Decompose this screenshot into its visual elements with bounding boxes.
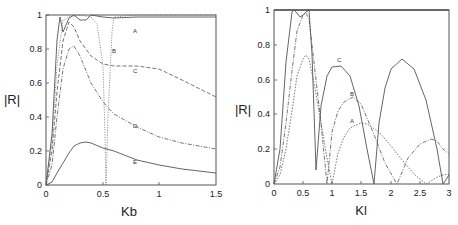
left-ytick-5: 1	[37, 10, 42, 20]
left-xtick-3: 1.5	[210, 189, 223, 199]
right-ytick-4: 0.8	[257, 40, 270, 50]
left-curve-a	[46, 15, 216, 185]
left-chart: 0 0.2 0.4 0.6 0.8 1 0 0.5 1 1.5 Kb |R| A…	[4, 10, 222, 219]
right-ytick-2: 0.4	[257, 109, 270, 119]
right-ytick-1: 0.2	[257, 144, 270, 154]
right-xtick-0: 0	[271, 188, 276, 198]
right-xtick-4: 2	[388, 188, 393, 198]
left-xtick-2: 1	[156, 189, 161, 199]
left-xaxis-label: Kb	[121, 204, 137, 219]
right-chart: 0 0.2 0.4 0.6 0.8 1 0 0.5 1 1.5 2 2.5 3 …	[235, 5, 452, 218]
right-curve-c	[274, 10, 449, 184]
right-label-c: C	[337, 57, 342, 63]
right-ytick-3: 0.6	[257, 75, 270, 85]
left-label-d: D	[133, 123, 138, 129]
left-yaxis-label: |R|	[4, 92, 20, 107]
left-label-e: E	[133, 159, 137, 165]
right-xaxis-label: Kl	[355, 203, 367, 218]
right-xtick-1: 0.5	[297, 188, 310, 198]
right-yaxis-label: |R|	[235, 102, 251, 117]
left-curve-b	[46, 15, 216, 185]
right-xtick-2: 1	[329, 188, 334, 198]
right-xtick-5: 2.5	[414, 188, 427, 198]
right-xtick-3: 1.5	[355, 188, 368, 198]
left-label-c: C	[133, 68, 138, 74]
left-ytick-2: 0.4	[29, 112, 42, 122]
left-label-b: B	[112, 48, 116, 54]
figure: 0 0.2 0.4 0.6 0.8 1 0 0.5 1 1.5 Kb |R| A…	[0, 0, 458, 225]
left-curve-d	[46, 46, 216, 185]
left-xtick-1: 0.5	[97, 189, 110, 199]
right-label-a: A	[350, 118, 354, 124]
left-curve-c	[46, 22, 216, 185]
left-ytick-1: 0.2	[29, 146, 42, 156]
right-xtick-6: 3	[446, 188, 451, 198]
left-xtick-0: 0	[43, 189, 48, 199]
left-plot-frame	[46, 15, 216, 185]
right-curve-b	[274, 13, 449, 184]
left-ytick-0: 0	[37, 180, 42, 190]
right-ytick-0: 0	[265, 179, 270, 189]
left-label-a: A	[133, 28, 137, 34]
right-ytick-5: 1	[265, 5, 270, 15]
left-curve-e	[46, 142, 216, 185]
right-plot-frame	[274, 10, 449, 184]
right-label-b: B	[350, 91, 354, 97]
left-ytick-4: 0.8	[29, 44, 42, 54]
left-ytick-3: 0.6	[29, 78, 42, 88]
